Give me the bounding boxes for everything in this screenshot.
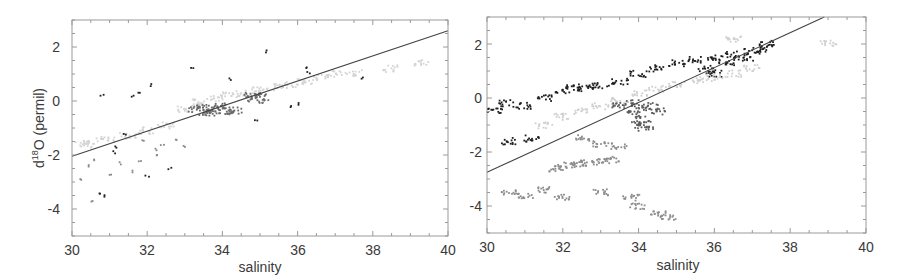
data-point bbox=[397, 66, 399, 68]
data-point bbox=[668, 65, 670, 67]
data-point bbox=[630, 195, 632, 197]
data-point bbox=[699, 76, 701, 78]
data-point bbox=[296, 83, 298, 85]
data-point bbox=[557, 195, 559, 197]
data-point bbox=[631, 197, 633, 199]
data-point bbox=[93, 159, 95, 161]
data-point bbox=[830, 40, 832, 42]
left-plot-frame bbox=[72, 20, 448, 236]
data-point bbox=[518, 197, 520, 199]
data-point bbox=[821, 43, 823, 45]
left-scatter-panel: 2 0 -2 -4 30 32 34 36 38 40 salinity d18… bbox=[0, 0, 450, 278]
data-point bbox=[674, 82, 676, 84]
data-point bbox=[643, 124, 645, 126]
data-point bbox=[566, 86, 568, 88]
data-point bbox=[699, 70, 701, 72]
data-point bbox=[232, 92, 234, 94]
data-point bbox=[508, 105, 510, 107]
data-point bbox=[648, 129, 650, 131]
data-point bbox=[694, 60, 696, 62]
data-point bbox=[298, 104, 300, 106]
data-point bbox=[588, 86, 590, 88]
data-point bbox=[206, 98, 208, 100]
data-point bbox=[184, 146, 186, 148]
data-point bbox=[286, 81, 288, 83]
right-xtick-34: 34 bbox=[631, 239, 647, 255]
data-point bbox=[672, 64, 674, 66]
data-point bbox=[730, 54, 732, 56]
data-point bbox=[621, 80, 623, 82]
data-point bbox=[556, 91, 558, 93]
data-point bbox=[195, 99, 197, 101]
data-point bbox=[604, 141, 606, 143]
data-point bbox=[613, 145, 615, 147]
data-point bbox=[594, 83, 596, 85]
data-point bbox=[740, 74, 742, 76]
data-point bbox=[634, 94, 636, 96]
data-point bbox=[245, 90, 247, 92]
data-point bbox=[560, 194, 562, 196]
data-point bbox=[176, 139, 178, 141]
data-point bbox=[196, 108, 198, 110]
data-point bbox=[291, 85, 293, 87]
data-point bbox=[665, 210, 667, 212]
data-point bbox=[557, 164, 559, 166]
data-point bbox=[151, 127, 153, 129]
data-point bbox=[545, 99, 547, 101]
right-axis-ticks bbox=[487, 17, 866, 233]
data-point bbox=[634, 90, 636, 92]
data-point bbox=[531, 138, 533, 140]
data-point bbox=[555, 168, 557, 170]
data-point bbox=[637, 194, 639, 196]
data-point bbox=[157, 124, 159, 126]
data-point bbox=[274, 83, 276, 85]
data-point bbox=[163, 144, 165, 146]
data-point bbox=[733, 52, 735, 54]
data-point bbox=[641, 73, 643, 75]
data-point bbox=[610, 148, 612, 150]
data-point bbox=[170, 126, 172, 128]
data-point bbox=[765, 49, 767, 51]
data-point bbox=[260, 90, 262, 92]
data-point bbox=[501, 102, 503, 104]
data-point bbox=[99, 193, 101, 195]
data-point bbox=[302, 82, 304, 84]
data-point bbox=[290, 105, 292, 107]
data-point bbox=[682, 60, 684, 62]
data-point bbox=[383, 69, 385, 71]
data-point bbox=[226, 111, 228, 113]
data-point bbox=[339, 70, 341, 72]
data-point bbox=[418, 61, 420, 63]
data-point bbox=[632, 75, 634, 77]
data-point bbox=[651, 86, 653, 88]
data-point bbox=[218, 100, 220, 102]
data-point bbox=[704, 66, 706, 68]
data-point bbox=[625, 197, 627, 199]
data-point bbox=[648, 89, 650, 91]
data-point bbox=[142, 130, 144, 132]
data-point bbox=[79, 178, 81, 180]
data-point bbox=[618, 161, 620, 163]
data-point bbox=[643, 122, 645, 124]
data-point bbox=[562, 119, 564, 121]
data-point bbox=[394, 66, 396, 68]
data-point bbox=[229, 113, 231, 115]
data-point bbox=[100, 95, 102, 97]
data-point bbox=[521, 197, 523, 199]
data-point bbox=[617, 146, 619, 148]
right-plot-frame bbox=[487, 17, 866, 233]
data-point bbox=[578, 89, 580, 91]
data-point bbox=[570, 163, 572, 165]
data-point bbox=[212, 107, 214, 109]
data-point bbox=[92, 143, 94, 145]
data-point bbox=[638, 104, 640, 106]
data-point bbox=[341, 74, 343, 76]
data-point bbox=[113, 139, 115, 141]
data-point bbox=[708, 72, 710, 74]
data-point bbox=[559, 168, 561, 170]
data-point bbox=[599, 106, 601, 108]
data-point bbox=[617, 105, 619, 107]
data-point bbox=[632, 99, 634, 101]
data-point bbox=[554, 196, 556, 198]
data-point bbox=[168, 126, 170, 128]
